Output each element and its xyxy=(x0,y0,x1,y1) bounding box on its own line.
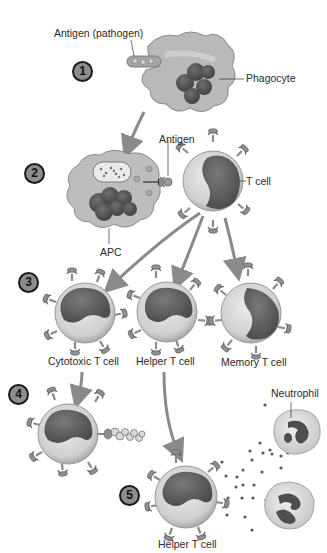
label-memory-t-cell: Memory T cell xyxy=(221,356,287,368)
label-t-cell: T cell xyxy=(246,175,271,187)
label-antigen-pathogen: Antigen (pathogen) xyxy=(54,27,143,39)
arrow-to-memory xyxy=(225,218,237,270)
neutrophil-bottom xyxy=(265,482,315,529)
arrow-to-step4 xyxy=(78,372,82,398)
neutrophil-top xyxy=(274,410,320,455)
step-4-badge: 4 xyxy=(8,384,29,405)
label-apc: APC xyxy=(100,246,122,258)
helper-t-cell-5 xyxy=(144,450,230,542)
label-neutrophil: Neutrophil xyxy=(271,387,319,399)
step-2-badge: 2 xyxy=(24,163,45,184)
apc-cell xyxy=(67,150,160,227)
label-phagocyte: Phagocyte xyxy=(246,72,296,84)
arrow-1-to-2 xyxy=(128,112,144,148)
step-5-badge: 5 xyxy=(119,485,140,506)
helper-t-cell xyxy=(126,265,212,355)
label-helper-t-cell: Helper T cell xyxy=(136,355,195,367)
label-antigen: Antigen xyxy=(159,133,195,145)
pathogen-icon xyxy=(127,56,161,67)
cytotoxic-attack xyxy=(26,386,145,477)
label-helper-t-cell-5: Helper T cell xyxy=(158,538,217,550)
step-3-badge: 3 xyxy=(18,272,39,293)
label-cytotoxic-t-cell: Cytotoxic T cell xyxy=(48,355,119,367)
step-1-badge: 1 xyxy=(72,61,93,82)
memory-t-cell xyxy=(208,263,291,359)
phagocyte-cell xyxy=(142,32,235,112)
arrow-to-step5 xyxy=(164,372,178,452)
